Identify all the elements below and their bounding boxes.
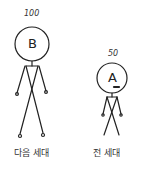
figure-b-label: 다음 세대: [14, 146, 49, 159]
stick-figures-drawing: [0, 0, 147, 169]
figure-b-letter: B: [28, 36, 37, 51]
figure-a-letter: A: [108, 70, 117, 85]
figure-a-label: 전 세대: [93, 146, 120, 159]
figure-b-value: 100: [24, 9, 39, 18]
figure-a-value: 50: [108, 49, 118, 58]
